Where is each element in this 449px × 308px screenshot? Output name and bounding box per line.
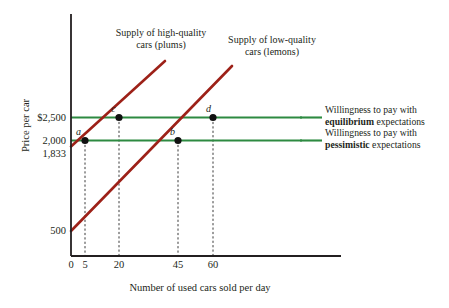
legend-item-pessimistic: Willingness to pay with pessimistic expe… [325,127,449,150]
supply-lemons-label-line1: Supply of low-quality [216,34,328,46]
supply-plums-label-line2: cars (plums) [102,39,220,51]
point-label-b: b [170,126,175,137]
supply-plums-label: Supply of high-quality cars (plums) [102,27,220,50]
supply-lemons-label-line2: cars (lemons) [216,46,328,58]
legend-pessimistic-line1: Willingness to pay with [325,127,449,139]
supply-lemons-label: Supply of low-quality cars (lemons) [216,34,328,57]
y-tick-label-500: 500 [26,225,66,236]
y-tick-label-2000: 2,000 [26,135,66,146]
droplines [85,118,213,257]
point-marker-d [209,114,216,121]
x-tick-label-60: 60 [203,259,223,270]
point-marker-a [81,137,88,144]
point-label-d: d [206,103,211,114]
point-label-c: c [111,103,115,114]
supply-lemons-line [71,66,232,231]
x-tick-label-45: 45 [168,259,188,270]
y-tick-label-2500: $2,500 [26,112,66,123]
point-marker-b [174,137,181,144]
chart-container: Price per car $2,500 2,000 1,833 500 0 5… [0,0,449,308]
supply-plums-label-line1: Supply of high-quality [102,27,220,39]
legend-equilibrium-keyword: equilibrium [325,116,374,127]
legend-item-equilibrium: Willingness to pay with equilibrium expe… [325,104,449,127]
point-marker-c [115,114,122,121]
x-axis-title: Number of used cars sold per day [110,282,290,293]
point-label-a: a [76,126,81,137]
legend-pessimistic-suffix: expectations [370,139,421,150]
x-tick-label-20: 20 [109,259,129,270]
supply-plums-line [71,61,165,147]
legend-equilibrium-line1: Willingness to pay with [325,104,449,116]
x-tick-label-5: 5 [75,259,95,270]
y-tick-label-1833: 1,833 [26,148,66,159]
legend-pessimistic-line2: pessimistic expectations [325,139,449,151]
legend-equilibrium-line2: equilibrium expectations [325,116,449,128]
legend-pessimistic-keyword: pessimistic [325,139,370,150]
legend-equilibrium-suffix: expectations [374,116,425,127]
